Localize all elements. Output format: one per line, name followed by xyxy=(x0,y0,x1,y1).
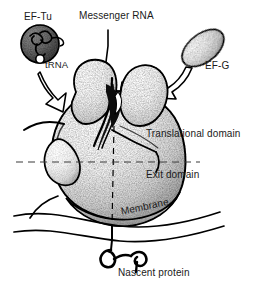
label-ef-g: EF-G xyxy=(205,61,229,71)
label-exit-domain: Exit domain xyxy=(146,170,199,180)
label-nascent-protein: Nascent protein xyxy=(118,268,190,278)
ef-tu-entry-arrow xyxy=(38,72,66,112)
label-messenger-rna: Messenger RNA xyxy=(79,11,154,21)
label-trna: tRNA xyxy=(45,60,68,70)
ribosome-translation-diagram: EF-Tu tRNA Messenger RNA EF-G Translatio… xyxy=(0,0,256,292)
nascent-protein-chain xyxy=(101,226,147,272)
ef-tu-trna-complex xyxy=(21,25,64,63)
label-ef-tu: EF-Tu xyxy=(24,12,52,22)
label-translational-domain: Translational domain xyxy=(146,129,240,139)
diagram-canvas xyxy=(0,0,256,292)
